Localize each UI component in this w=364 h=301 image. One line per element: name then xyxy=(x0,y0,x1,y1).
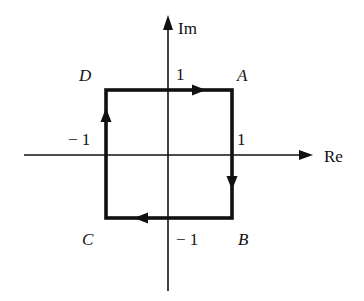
arrow-down-icon xyxy=(227,176,238,190)
real-axis-label: Re xyxy=(324,147,343,166)
tick-label-top: 1 xyxy=(176,65,185,84)
imaginary-axis-label: Im xyxy=(178,19,197,38)
imaginary-axis xyxy=(163,15,173,291)
tick-label-right: 1 xyxy=(237,130,246,149)
vertex-label-b: B xyxy=(238,230,249,249)
vertex-label-c: C xyxy=(82,230,94,249)
imaginary-axis-arrow-icon xyxy=(163,15,173,30)
arrow-up-icon xyxy=(101,108,112,122)
square-contour xyxy=(101,85,238,224)
complex-plane-diagram: Im Re D A C B 1 − 1 − 1 1 xyxy=(0,0,364,301)
vertex-label-d: D xyxy=(78,66,92,85)
arrow-right-icon xyxy=(192,85,206,96)
real-axis-arrow-icon xyxy=(299,150,313,160)
arrow-left-icon xyxy=(134,213,148,224)
tick-label-left: − 1 xyxy=(68,130,90,149)
vertex-label-a: A xyxy=(236,66,248,85)
tick-label-bottom: − 1 xyxy=(176,230,198,249)
